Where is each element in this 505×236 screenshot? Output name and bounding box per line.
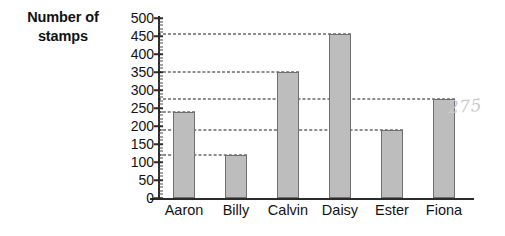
y-axis-minor-tick — [158, 75, 163, 76]
y-axis-tick-label: 450 — [124, 28, 154, 44]
y-axis-major-tick — [154, 107, 163, 109]
y-axis-minor-tick — [158, 46, 163, 47]
y-axis-minor-tick — [158, 21, 163, 22]
y-axis-major-tick — [154, 179, 163, 181]
y-axis-minor-tick — [158, 194, 163, 195]
y-axis-minor-tick — [158, 172, 163, 173]
gridline — [158, 99, 455, 100]
bar — [329, 34, 352, 198]
y-axis-minor-tick — [158, 190, 163, 191]
y-axis-title: Number of stamps — [8, 8, 118, 45]
handwritten-annotation-275: 275 — [447, 95, 482, 117]
y-axis-minor-tick — [158, 136, 163, 137]
y-axis-major-tick — [154, 143, 163, 145]
y-axis-tick-label: 250 — [124, 100, 154, 116]
y-axis-minor-tick — [158, 28, 163, 29]
y-axis-minor-tick — [158, 104, 163, 105]
y-axis-minor-tick — [158, 151, 163, 152]
y-axis-tick-label: 300 — [124, 82, 154, 98]
y-axis-minor-tick — [158, 86, 163, 87]
bar — [277, 72, 300, 198]
y-axis-minor-tick — [158, 57, 163, 58]
y-axis-minor-tick — [158, 187, 163, 188]
x-axis-tick-label: Calvin — [268, 202, 308, 218]
bar-chart-figure: Number of stamps 05010015020025030035040… — [0, 0, 505, 236]
y-axis-minor-tick — [158, 43, 163, 44]
y-axis-tick-label: 200 — [124, 118, 154, 134]
y-axis-tick-label: 100 — [124, 154, 154, 170]
y-axis-minor-tick — [158, 39, 163, 40]
y-axis-minor-tick — [158, 169, 163, 170]
y-axis-minor-tick — [158, 93, 163, 94]
y-axis-minor-tick — [158, 118, 163, 119]
x-axis-tick-label: Billy — [223, 202, 250, 218]
y-axis-minor-tick — [158, 64, 163, 65]
y-axis-major-tick — [154, 35, 163, 37]
y-axis-major-tick — [154, 17, 163, 19]
y-axis-minor-tick — [158, 147, 163, 148]
y-axis-minor-tick — [158, 82, 163, 83]
x-axis-tick-label: Fiona — [426, 202, 462, 218]
y-axis-minor-tick — [158, 61, 163, 62]
y-axis-minor-tick — [158, 122, 163, 123]
y-axis-minor-tick — [158, 176, 163, 177]
y-axis-title-line-2: stamps — [8, 27, 118, 46]
y-axis-minor-tick — [158, 133, 163, 134]
bar — [381, 130, 404, 198]
y-axis-minor-tick — [158, 100, 163, 101]
y-axis-minor-tick — [158, 115, 163, 116]
y-axis-tick-label: 150 — [124, 136, 154, 152]
x-axis-tick-label: Daisy — [322, 202, 358, 218]
y-axis-minor-tick — [158, 50, 163, 51]
y-axis-major-tick — [154, 161, 163, 163]
y-axis-tick-label: 400 — [124, 46, 154, 62]
y-axis-minor-tick — [158, 68, 163, 69]
y-axis-title-line-1: Number of — [8, 8, 118, 27]
y-axis-minor-tick — [158, 25, 163, 26]
y-axis-tick-labels: 050100150200250300350400450500 — [118, 0, 154, 236]
y-axis-minor-tick — [158, 140, 163, 141]
bar — [225, 155, 248, 198]
y-axis-major-tick — [154, 125, 163, 127]
gridline — [158, 34, 351, 35]
y-axis-tick-label: 500 — [124, 10, 154, 26]
bar — [173, 112, 196, 198]
y-axis-minor-tick — [158, 79, 163, 80]
x-axis-line — [150, 198, 474, 200]
y-axis-major-tick — [154, 53, 163, 55]
x-axis-tick-label: Aaron — [165, 202, 204, 218]
y-axis-minor-tick — [158, 158, 163, 159]
y-axis-minor-tick — [158, 183, 163, 184]
y-axis-tick-label: 50 — [124, 172, 154, 188]
x-axis-tick-labels: AaronBillyCalvinDaisyEsterFiona — [158, 202, 470, 228]
y-axis-tick-label: 350 — [124, 64, 154, 80]
y-axis-minor-tick — [158, 165, 163, 166]
y-axis-major-tick — [154, 197, 163, 199]
x-axis-tick-label: Ester — [375, 202, 409, 218]
y-axis-major-tick — [154, 89, 163, 91]
y-axis-tick-label: 0 — [124, 190, 154, 206]
